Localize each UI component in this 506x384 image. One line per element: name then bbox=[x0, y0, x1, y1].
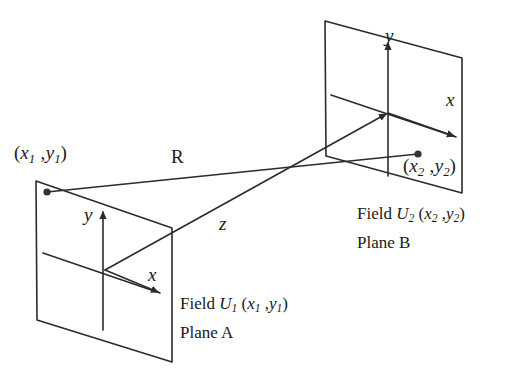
ray-R-line bbox=[47, 154, 418, 192]
plane-b-y-axis-label: y bbox=[385, 26, 393, 45]
ray-R-label: R bbox=[171, 147, 184, 166]
source-point-label: (x1 ,y1) bbox=[14, 143, 67, 166]
plane-b-field-line: Field U2 (x2 ,y2) bbox=[357, 205, 465, 225]
plane-b-x-axis bbox=[388, 113, 454, 136]
axis-z-line bbox=[105, 114, 386, 270]
plane-a-field-line: Field U1 (x1 ,y1) bbox=[180, 295, 288, 315]
plane-a-name-line: Plane A bbox=[180, 324, 288, 341]
figure-canvas: (x1 ,y1) (x2 ,y2) R z y x y x Field U1 (… bbox=[0, 0, 506, 384]
plane-a-y-axis-label: y bbox=[84, 205, 92, 224]
plane-a-caption: Field U1 (x1 ,y1) Plane A bbox=[180, 295, 288, 341]
source-point-marker bbox=[43, 188, 50, 195]
plane-b-x-axis-label: x bbox=[446, 90, 454, 109]
plane-a-x-axis-label: x bbox=[148, 265, 156, 284]
plane-b-caption: Field U2 (x2 ,y2) Plane B bbox=[357, 205, 465, 251]
observation-point-label: (x2 ,y2) bbox=[403, 156, 456, 179]
plane-a-horizontal-guide bbox=[43, 253, 160, 293]
axis-z-label: z bbox=[219, 214, 226, 233]
plane-b-name-line: Plane B bbox=[357, 234, 465, 251]
